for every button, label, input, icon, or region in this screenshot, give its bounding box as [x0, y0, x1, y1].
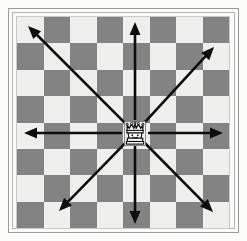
board-square: [203, 70, 230, 96]
board-square: [17, 96, 44, 122]
board-square: [150, 149, 177, 175]
queen-movement-figure: Queen movement diagram Chessboard with a…: [0, 0, 247, 241]
board-square: [150, 202, 177, 228]
board-square: [44, 202, 71, 228]
board-square: [17, 149, 44, 175]
board-square: [123, 17, 150, 43]
board-square: [70, 123, 97, 149]
board-square: [203, 175, 230, 201]
board-square: [97, 175, 124, 201]
board-square: [203, 43, 230, 69]
board-square: [203, 17, 230, 43]
board-square: [17, 123, 44, 149]
board-square: [150, 70, 177, 96]
board-square: [17, 17, 44, 43]
board-square: [150, 43, 177, 69]
board-square: [97, 70, 124, 96]
board-square: [44, 70, 71, 96]
board-square: [70, 96, 97, 122]
board-square: [176, 202, 203, 228]
white-queen-piece: [124, 121, 146, 146]
board-square: [97, 43, 124, 69]
board-square: [203, 202, 230, 228]
board-square: [203, 149, 230, 175]
board-square: [203, 123, 230, 149]
board-square: [97, 202, 124, 228]
board-square: [123, 96, 150, 122]
board-square: [70, 202, 97, 228]
board-square: [176, 175, 203, 201]
board-square: [176, 123, 203, 149]
board-square: [44, 43, 71, 69]
chessboard: [17, 17, 229, 228]
board-square: [176, 149, 203, 175]
board-square: [203, 96, 230, 122]
board-square: [97, 17, 124, 43]
board-square: [97, 123, 124, 149]
board-square: [70, 17, 97, 43]
board-square: [176, 17, 203, 43]
board-square: [97, 149, 124, 175]
board-square: [70, 43, 97, 69]
board-square: [44, 123, 71, 149]
board-square: [44, 175, 71, 201]
board-square: [17, 70, 44, 96]
board-square: [97, 96, 124, 122]
board-square: [17, 202, 44, 228]
board-square: [70, 70, 97, 96]
board-square: [150, 175, 177, 201]
board-square: [123, 149, 150, 175]
board-square: [123, 70, 150, 96]
board-square: [123, 202, 150, 228]
board-square: [70, 149, 97, 175]
board-square: [176, 70, 203, 96]
board-square: [176, 43, 203, 69]
board-square: [150, 96, 177, 122]
board-square: [150, 123, 177, 149]
board-square: [17, 175, 44, 201]
board-square: [70, 175, 97, 201]
board-square: [123, 175, 150, 201]
board-square: [123, 43, 150, 69]
board-square: [176, 96, 203, 122]
board-square: [17, 43, 44, 69]
board-square: [44, 17, 71, 43]
board-square: [44, 96, 71, 122]
board-square: [150, 17, 177, 43]
board-square: [44, 149, 71, 175]
